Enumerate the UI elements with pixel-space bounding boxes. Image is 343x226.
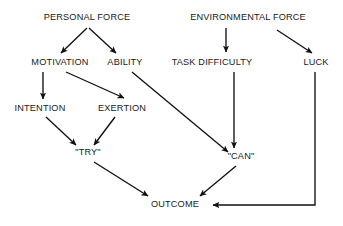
node-personal-force: PERSONAL FORCE bbox=[44, 13, 131, 22]
node-motivation: MOTIVATION bbox=[31, 58, 88, 67]
node-outcome: OUTCOME bbox=[151, 200, 199, 209]
edge-try-to-outcome bbox=[94, 162, 148, 196]
node-try: "TRY" bbox=[75, 148, 100, 157]
edge-personal-force-to-ability bbox=[89, 28, 116, 53]
node-intention: INTENTION bbox=[15, 104, 66, 113]
node-task-difficulty: TASK DIFFICULTY bbox=[172, 58, 253, 67]
edge-intention-to-try bbox=[46, 117, 76, 145]
node-environmental-force: ENVIRONMENTAL FORCE bbox=[190, 13, 306, 22]
edge-can-to-outcome bbox=[200, 166, 236, 196]
edge-ability-to-can bbox=[132, 72, 228, 152]
diagram-canvas: PERSONAL FORCE ENVIRONMENTAL FORCE MOTIV… bbox=[0, 0, 343, 226]
node-luck: LUCK bbox=[303, 58, 328, 67]
node-exertion: EXERTION bbox=[98, 104, 146, 113]
node-can: "CAN" bbox=[228, 152, 255, 161]
edge-personal-force-to-motivation bbox=[61, 28, 87, 53]
edge-exertion-to-try bbox=[94, 117, 115, 145]
edge-luck-to-outcome bbox=[213, 72, 315, 205]
edge-environmental-force-to-luck bbox=[277, 30, 312, 53]
edge-motivation-to-exertion bbox=[66, 72, 124, 98]
node-ability: ABILITY bbox=[107, 58, 142, 67]
